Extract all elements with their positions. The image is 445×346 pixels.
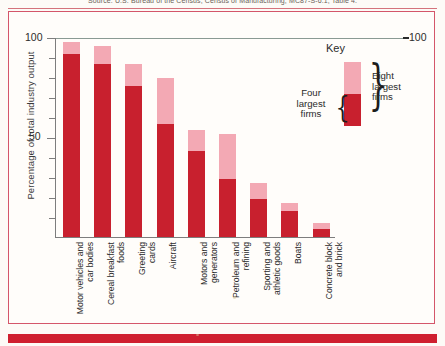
chart-legend: Key { } Four largest firms Eight largest… — [300, 36, 435, 146]
bar-9 — [313, 223, 330, 237]
legend-brace-left-icon: { — [335, 92, 349, 122]
legend-title: Key — [326, 42, 345, 54]
bar-5 — [188, 130, 205, 237]
bar-group — [55, 38, 335, 237]
bar-segment-four-largest — [188, 151, 205, 237]
bar-segment-four-largest — [94, 64, 111, 237]
bar-3 — [125, 64, 142, 237]
bar-segment-four-largest — [281, 211, 298, 237]
printed-page: Source: U.S. Bureau of the Census, Censu… — [0, 0, 445, 346]
bar-4 — [157, 78, 174, 237]
bar-1 — [63, 42, 80, 237]
x-axis-label-6: Petroleum and refining — [232, 242, 251, 332]
bar-segment-four-largest — [125, 86, 142, 237]
y-tick-label-50: 50 — [29, 130, 41, 142]
x-axis-label-7: Sporting and athletic goods — [263, 242, 282, 332]
x-axis-label-8: Boats — [294, 242, 304, 332]
x-axis-label-3: Greeting cards — [138, 242, 157, 332]
x-axis-label-5: Motors and generators — [200, 242, 219, 332]
y-axis-label: Percentage of total industry output — [25, 21, 36, 231]
legend-label-four-largest: Four largest firms — [288, 88, 334, 120]
bar-6 — [219, 134, 236, 237]
bar-8 — [281, 203, 298, 237]
x-axis-label-2: Cereal breakfast foods — [107, 242, 126, 332]
x-axis-line — [55, 237, 335, 238]
chart-plot-area: Percentage of total industry output 100 … — [0, 0, 445, 346]
legend-label-eight-largest: Eight largest firms — [372, 71, 422, 103]
bar-segment-four-largest — [250, 199, 267, 237]
bar-segment-four-largest — [157, 124, 174, 237]
x-axis-label-group: Motor vehicles and car bodiesCereal brea… — [55, 240, 355, 340]
x-axis-label-9: Concrete block and brick — [325, 242, 344, 332]
bar-segment-four-largest — [63, 54, 80, 237]
bar-2 — [94, 46, 111, 237]
bar-7 — [250, 183, 267, 237]
bottom-color-bar — [8, 334, 437, 343]
x-axis-label-4: Aircraft — [169, 242, 179, 332]
paper-speck — [196, 334, 199, 336]
y-tick-label-100: 100 — [25, 31, 43, 43]
bar-segment-four-largest — [219, 179, 236, 237]
x-axis-label-1: Motor vehicles and car bodies — [76, 242, 95, 332]
paper-speck — [233, 296, 236, 299]
bar-segment-four-largest — [313, 229, 330, 237]
